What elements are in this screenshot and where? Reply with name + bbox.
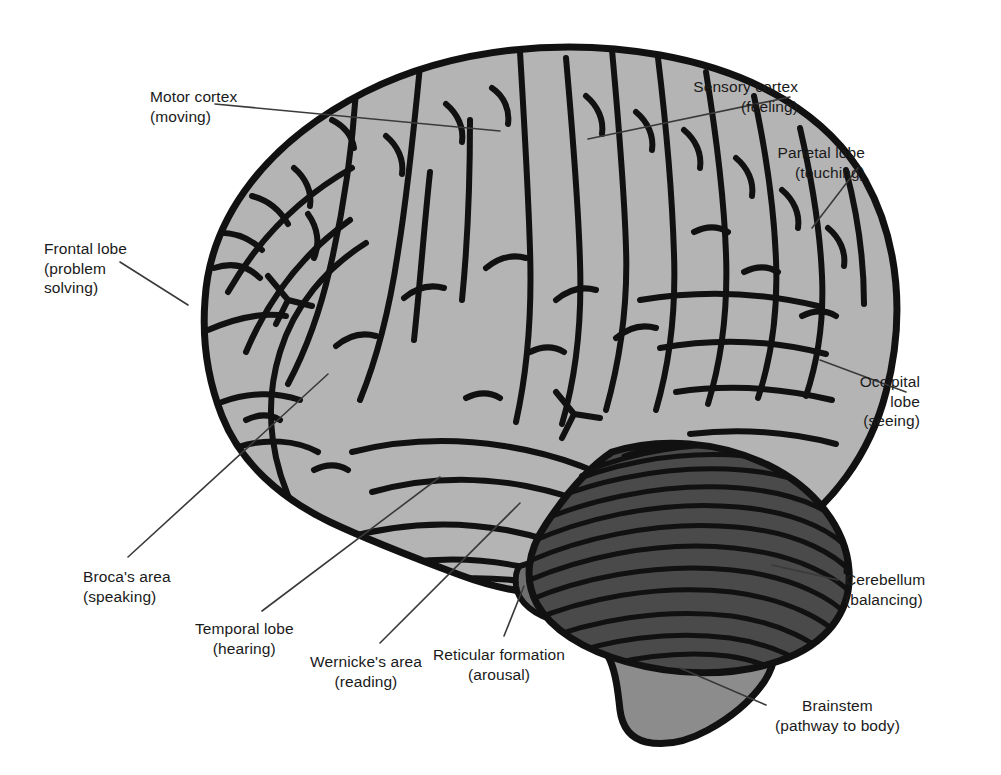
brain-diagram: Motor cortex (moving) Sensory cortex (fe… (0, 0, 1001, 775)
label-brocas-area-title: Broca's area (83, 567, 171, 587)
leader-frontal (120, 262, 188, 305)
label-cerebellum-title: Cerebellum (845, 570, 925, 590)
label-brainstem-detail: (pathway to body) (775, 716, 900, 736)
label-sensory-cortex-title: Sensory cortex (693, 77, 798, 97)
label-frontal-lobe-title: Frontal lobe (44, 239, 127, 259)
label-parietal-lobe-detail: (touching) (778, 163, 865, 183)
label-temporal-lobe-detail: (hearing) (195, 639, 294, 659)
label-occipital-lobe-detail: lobe (860, 392, 920, 412)
label-temporal-lobe-title: Temporal lobe (195, 619, 294, 639)
label-temporal-lobe: Temporal lobe (hearing) (195, 619, 294, 658)
label-sensory-cortex: Sensory cortex (feeling) (693, 77, 798, 116)
label-motor-cortex-detail: (moving) (150, 107, 237, 127)
label-frontal-lobe: Frontal lobe (problem solving) (44, 239, 127, 298)
label-sensory-cortex-detail: (feeling) (693, 97, 798, 117)
label-occipital-lobe-title: Occipital (860, 372, 920, 392)
label-frontal-lobe-detail2: solving) (44, 278, 127, 298)
label-reticular-formation-detail: (arousal) (433, 665, 565, 685)
label-reticular-formation-title: Reticular formation (433, 645, 565, 665)
label-brainstem-title: Brainstem (775, 696, 900, 716)
label-brocas-area: Broca's area (speaking) (83, 567, 171, 606)
label-parietal-lobe: Parietal lobe (touching) (778, 143, 865, 182)
label-brocas-area-detail: (speaking) (83, 587, 171, 607)
label-cerebellum: Cerebellum (balancing) (845, 570, 925, 609)
label-cerebellum-detail: (balancing) (845, 590, 925, 610)
label-occipital-lobe: Occipital lobe (seeing) (860, 372, 920, 431)
label-motor-cortex: Motor cortex (moving) (150, 87, 237, 126)
label-frontal-lobe-detail: (problem (44, 259, 127, 279)
label-wernickes-area: Wernicke's area (reading) (310, 652, 422, 691)
label-brainstem: Brainstem (pathway to body) (775, 696, 900, 735)
label-parietal-lobe-title: Parietal lobe (778, 143, 865, 163)
label-wernickes-area-title: Wernicke's area (310, 652, 422, 672)
label-motor-cortex-title: Motor cortex (150, 87, 237, 107)
label-occipital-lobe-detail2: (seeing) (860, 411, 920, 431)
label-reticular-formation: Reticular formation (arousal) (433, 645, 565, 684)
label-wernickes-area-detail: (reading) (310, 672, 422, 692)
